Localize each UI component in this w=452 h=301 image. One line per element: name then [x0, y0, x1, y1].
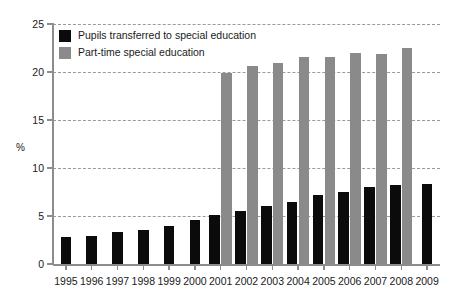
x-tick-mark	[168, 264, 169, 270]
bar-gray-2006	[350, 53, 361, 264]
bar-black-1998	[138, 230, 149, 264]
x-tick-mark	[323, 264, 324, 270]
bar-black-2004	[287, 202, 298, 264]
bar-black-2002	[235, 211, 246, 264]
legend-label: Part-time special education	[78, 47, 205, 58]
bar-group-2005	[311, 24, 337, 264]
bar-group-2007	[363, 24, 389, 264]
y-tick-label: 25	[16, 19, 44, 30]
legend-item-pupils-transferred: Pupils transferred to special education	[59, 29, 256, 42]
y-tick-label: 10	[16, 163, 44, 174]
x-tick-label-2002: 2002	[234, 276, 260, 287]
chart-legend: Pupils transferred to special education …	[59, 29, 256, 59]
x-tick-mark	[426, 264, 427, 270]
y-tick-label: 5	[16, 211, 44, 222]
x-tick-mark	[143, 264, 144, 270]
bar-group-1997	[105, 24, 131, 264]
x-tick-label-2007: 2007	[363, 276, 389, 287]
x-tick-label-1997: 1997	[105, 276, 131, 287]
legend-swatch-gray-icon	[59, 47, 71, 59]
bar-black-1996	[86, 236, 97, 264]
bar-group-2008	[388, 24, 414, 264]
bar-gray-2007	[376, 54, 387, 264]
bar-group-2006	[337, 24, 363, 264]
bar-group-2009	[414, 24, 440, 264]
x-tick-mark	[65, 264, 66, 270]
x-tick-label-2000: 2000	[182, 276, 208, 287]
x-tick-mark	[246, 264, 247, 270]
bar-black-2000	[190, 220, 201, 264]
x-tick-mark	[194, 264, 195, 270]
bar-group-2000	[182, 24, 208, 264]
x-tick-label-2006: 2006	[337, 276, 363, 287]
bar-black-2007	[364, 187, 375, 264]
y-tick-label: 20	[16, 67, 44, 78]
x-tick-mark	[349, 264, 350, 270]
legend-label: Pupils transferred to special education	[78, 30, 256, 41]
plot-area	[53, 24, 440, 264]
bar-group-2003	[259, 24, 285, 264]
bar-group-1996	[79, 24, 105, 264]
x-tick-mark	[220, 264, 221, 270]
bar-group-1995	[53, 24, 79, 264]
bar-black-1995	[61, 237, 72, 264]
x-tick-mark	[117, 264, 118, 270]
bar-black-2008	[390, 185, 401, 264]
bar-group-1998	[130, 24, 156, 264]
x-tick-label-2008: 2008	[388, 276, 414, 287]
bar-group-2001	[208, 24, 234, 264]
bar-gray-2005	[325, 57, 336, 264]
y-tick-label: 0	[16, 259, 44, 270]
legend-item-part-time: Part-time special education	[59, 46, 256, 59]
x-tick-mark	[272, 264, 273, 270]
x-tick-label-1996: 1996	[79, 276, 105, 287]
bar-group-2004	[285, 24, 311, 264]
bar-gray-2003	[273, 63, 284, 264]
bar-gray-2004	[299, 57, 310, 264]
x-tick-label-1998: 1998	[130, 276, 156, 287]
bar-black-2005	[313, 195, 324, 264]
bar-group-1999	[156, 24, 182, 264]
y-axis-title: %	[16, 143, 25, 153]
bar-chart: 0510152025 % 199519961997199819992000200…	[0, 0, 452, 301]
bar-black-1997	[112, 232, 123, 264]
x-tick-label-2005: 2005	[311, 276, 337, 287]
bar-gray-2002	[247, 66, 258, 264]
x-tick-label-2004: 2004	[285, 276, 311, 287]
x-tick-label-1999: 1999	[156, 276, 182, 287]
y-axis-tick-labels: 0510152025	[8, 0, 44, 301]
x-tick-label-2009: 2009	[414, 276, 440, 287]
x-tick-mark	[375, 264, 376, 270]
bar-group-2002	[234, 24, 260, 264]
x-tick-label-2001: 2001	[208, 276, 234, 287]
bar-black-2006	[338, 192, 349, 264]
x-tick-mark	[401, 264, 402, 270]
x-tick-label-1995: 1995	[53, 276, 79, 287]
bar-black-2001	[209, 215, 220, 264]
x-tick-mark	[297, 264, 298, 270]
x-tick-label-2003: 2003	[259, 276, 285, 287]
bar-black-2009	[422, 184, 433, 264]
y-tick-label: 15	[16, 115, 44, 126]
bar-black-1999	[164, 226, 175, 264]
bar-gray-2008	[402, 48, 413, 264]
bar-black-2003	[261, 206, 272, 264]
bar-gray-2001	[221, 73, 232, 264]
x-tick-mark	[91, 264, 92, 270]
legend-swatch-black-icon	[59, 30, 71, 42]
